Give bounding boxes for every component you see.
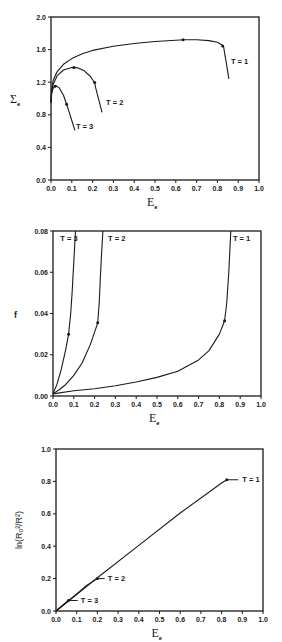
x-tick-label: 0.1	[69, 401, 79, 408]
x-tick-label: 0.3	[109, 185, 119, 192]
data-marker	[72, 66, 75, 69]
figure: 0.00.10.20.30.40.50.60.70.80.91.00.00.40…	[0, 0, 282, 642]
panel-porosity: 0.00.10.20.30.40.50.60.70.80.91.00.000.0…	[14, 228, 266, 428]
data-marker	[182, 38, 185, 41]
x-tick-label: 1.0	[256, 401, 266, 408]
x-tick-label: 0.4	[131, 401, 141, 408]
curve-line	[56, 480, 227, 611]
curve-label: T = 1	[242, 475, 259, 484]
y-tick-label: 0.2	[41, 575, 51, 582]
y-axis-label: Σe	[10, 92, 20, 108]
data-marker	[221, 44, 224, 47]
x-tick-label: 0.2	[88, 185, 98, 192]
x-tick-label: 0.7	[192, 185, 202, 192]
series-t-1: T = 1	[56, 475, 260, 611]
x-tick-label: 0.8	[215, 401, 225, 408]
x-tick-label: 0.8	[213, 185, 223, 192]
x-tick-label: 0.0	[51, 616, 61, 623]
series-t-1: T = 1	[53, 231, 250, 394]
x-tick-label: 0.9	[233, 185, 243, 192]
curve-line	[53, 231, 231, 394]
x-tick-label: 0.3	[113, 616, 123, 623]
x-tick-label: 0.2	[93, 616, 103, 623]
x-tick-label: 0.4	[134, 616, 144, 623]
data-marker	[96, 321, 99, 324]
y-axis-label: f	[14, 310, 18, 320]
x-tick-label: 0.5	[152, 401, 162, 408]
x-axis-label: Ee	[152, 626, 162, 642]
x-tick-label: 0.6	[171, 185, 181, 192]
y-tick-label: 0.08	[34, 228, 48, 235]
x-tick-label: 0.1	[67, 185, 77, 192]
y-axis-label: ln(R₀²/R²)	[14, 511, 24, 549]
x-tick-label: 0.7	[196, 616, 206, 623]
y-tick-label: 0.4	[41, 543, 51, 550]
series-t-2: T = 2	[56, 574, 125, 611]
x-tick-label: 0.3	[111, 401, 121, 408]
data-marker	[93, 81, 96, 84]
x-tick-label: 0.6	[175, 616, 185, 623]
data-marker	[65, 103, 68, 106]
x-tick-label: 0.2	[90, 401, 100, 408]
y-tick-label: 0.8	[36, 111, 46, 118]
x-axis-label: Ee	[149, 411, 159, 427]
curve-line	[51, 40, 229, 103]
y-tick-label: 0.00	[34, 393, 48, 400]
x-tick-label: 0.1	[72, 616, 82, 623]
x-tick-label: 0.6	[173, 401, 183, 408]
curve-line	[53, 231, 103, 394]
panel-stress: 0.00.10.20.30.40.50.60.70.80.91.00.00.40…	[10, 14, 264, 212]
series-t-3: T = 3	[51, 85, 93, 131]
x-tick-label: 0.7	[194, 401, 204, 408]
curve-label: T = 1	[231, 57, 248, 66]
series-t-1: T = 1	[51, 38, 248, 102]
y-tick-label: 0.06	[34, 269, 48, 276]
data-marker	[67, 333, 70, 336]
x-tick-label: 0.8	[217, 616, 227, 623]
y-tick-label: 1.6	[36, 46, 46, 53]
curve-label: T = 3	[81, 596, 98, 605]
x-tick-label: 1.0	[254, 185, 264, 192]
curve-label: T = 3	[76, 122, 93, 131]
curve-label: T = 1	[233, 234, 250, 243]
curve-line	[56, 601, 68, 612]
curve-label: T = 2	[108, 234, 125, 243]
curve-line	[53, 231, 76, 394]
curve-label: T = 2	[108, 574, 125, 583]
data-marker	[54, 85, 57, 88]
y-tick-label: 2.0	[36, 14, 46, 21]
y-tick-label: 0.4	[36, 144, 46, 151]
data-marker	[223, 319, 226, 322]
x-tick-label: 0.5	[150, 185, 160, 192]
x-axis-label: Ee	[147, 195, 157, 211]
y-tick-label: 0.6	[41, 510, 51, 517]
series-t-3: T = 3	[56, 596, 98, 611]
y-tick-label: 1.2	[36, 79, 46, 86]
curve-line	[51, 86, 75, 130]
x-tick-label: 1.0	[258, 616, 268, 623]
y-tick-label: 0.0	[41, 608, 51, 615]
curve-label: T = 2	[106, 98, 123, 107]
y-tick-label: 0.8	[41, 478, 51, 485]
x-tick-label: 0.0	[46, 185, 56, 192]
curve-label: T = 3	[60, 234, 77, 243]
x-tick-label: 0.9	[237, 616, 247, 623]
x-tick-label: 0.0	[48, 401, 58, 408]
panel-radius: 0.00.10.20.30.40.50.60.70.80.91.00.00.20…	[14, 446, 268, 642]
y-tick-label: 1.0	[41, 446, 51, 453]
x-tick-label: 0.9	[235, 401, 245, 408]
figure-canvas: 0.00.10.20.30.40.50.60.70.80.91.00.00.40…	[0, 0, 282, 642]
y-tick-label: 0.0	[36, 177, 46, 184]
x-tick-label: 0.5	[155, 616, 165, 623]
curve-line	[51, 68, 102, 113]
y-tick-label: 0.04	[34, 310, 48, 317]
series-t-2: T = 2	[53, 231, 125, 394]
y-tick-label: 0.02	[34, 351, 48, 358]
series-t-2: T = 2	[51, 66, 123, 112]
series-t-3: T = 3	[53, 231, 78, 394]
x-tick-label: 0.4	[129, 185, 139, 192]
